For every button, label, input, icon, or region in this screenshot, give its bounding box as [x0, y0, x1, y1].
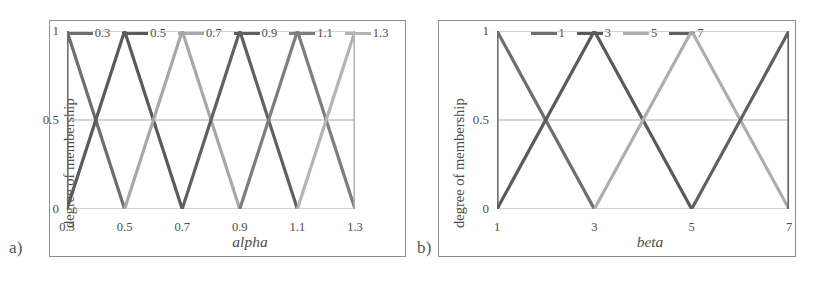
x-tick-label: 1.3 [335, 220, 375, 235]
plot-area-beta [497, 31, 789, 209]
x-tick-label: 0.3 [47, 220, 87, 235]
x-axis-label-beta: beta [590, 233, 710, 251]
x-tick-label: 7 [769, 220, 809, 235]
x-tick-label: 0.5 [105, 220, 145, 235]
y-tick-label: 0 [31, 201, 59, 217]
x-axis-label-alpha: alpha [190, 233, 310, 251]
series-lines-beta [497, 31, 789, 209]
panel-label-b: b) [417, 238, 432, 258]
panel-label-a: a) [9, 238, 23, 258]
y-tick-label: 0 [461, 201, 489, 217]
y-tick-label: 1 [31, 23, 59, 39]
plot-area-alpha [67, 31, 355, 209]
y-tick-label: 0.5 [31, 112, 59, 128]
y-tick-label: 0.5 [461, 112, 489, 128]
x-tick-label: 1 [477, 220, 517, 235]
series-lines-alpha [67, 31, 355, 209]
legend-label: 1.3 [373, 27, 389, 40]
figure-container: 0.30.50.70.91.11.3 degree of membership … [0, 0, 814, 288]
y-tick-label: 1 [461, 23, 489, 39]
